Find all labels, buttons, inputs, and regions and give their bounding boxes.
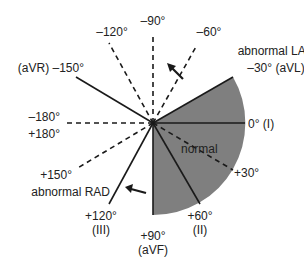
label-plus-60: +60° [187,209,212,223]
cardiac-axis-diagram: –90° –120° –60° (aVR) –150° abnormal LAD… [0,0,304,265]
label-0-lead-i: 0° (I) [248,117,274,131]
label-avf: (aVF) [138,243,168,257]
arrow-right-axis-deviation-icon [125,184,146,193]
label-normal: normal [181,142,218,156]
axis-line-minus-150-avr [76,77,153,123]
label-abnormal-lad: abnormal LAD [238,44,304,58]
label-minus-150-avr: (aVR) –150° [18,61,84,75]
label-minus-120: –120° [96,25,128,39]
label-plus-30: +30° [234,166,259,180]
label-abnormal-rad: abnormal RAD [31,185,110,199]
label-minus-30-avl: –30° (aVL) [247,61,304,75]
label-plus-180: +180° [28,127,60,141]
label-plus-90: +90° [140,229,165,243]
axis-line-plus-150 [76,123,153,169]
label-plus-120: +120° [85,209,117,223]
arrow-left-axis-deviation-icon [167,63,183,79]
label-lead-ii: (II) [193,223,208,237]
axis-line-minus-120 [109,43,153,123]
label-minus-60: –60° [197,25,222,39]
label-minus-180: –180° [29,110,61,124]
label-lead-iii: (III) [92,223,110,237]
label-plus-150: +150° [40,168,72,182]
label-minus-90: –90° [141,14,166,28]
